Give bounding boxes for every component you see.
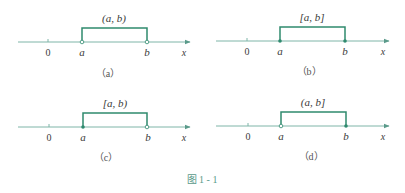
open-endpoint-a	[80, 40, 84, 44]
b-label: b	[342, 45, 348, 57]
closed-endpoint-a	[278, 39, 282, 43]
origin-label: 0	[46, 47, 51, 58]
axis-label: x	[380, 131, 386, 142]
interval-bracket	[82, 28, 147, 42]
open-endpoint-a	[279, 124, 283, 128]
closed-endpoint-b	[343, 39, 347, 43]
axis-label: x	[181, 47, 187, 58]
sub-caption: （b）	[297, 66, 322, 77]
b-label: b	[144, 46, 150, 58]
open-endpoint-b	[145, 125, 149, 129]
interval-label: [a, b]	[299, 11, 324, 23]
axis-label: x	[181, 132, 187, 143]
panel-d: (a, b] 0 a b x （d）	[216, 96, 389, 162]
interval-bracket	[280, 27, 345, 41]
closed-endpoint-a	[81, 125, 85, 129]
figure-caption: 图 1 - 1	[187, 174, 218, 185]
closed-endpoint-b	[344, 124, 348, 128]
interval-label: (a, b)	[102, 12, 126, 25]
panel-a: (a, b) 0 a b x （a）	[18, 12, 190, 79]
panel-c: [a, b) 0 a b x （c）	[18, 97, 190, 163]
interval-bracket	[281, 112, 346, 126]
sub-caption: （d）	[299, 151, 324, 162]
interval-label: [a, b)	[103, 97, 128, 110]
axis-label: x	[380, 46, 386, 57]
a-label: a	[277, 45, 283, 57]
interval-figure: (a, b) 0 a b x （a） [a, b] 0 a b x （b） [a…	[0, 0, 405, 193]
a-label: a	[79, 46, 85, 58]
b-label: b	[343, 130, 349, 142]
b-label: b	[145, 131, 151, 143]
a-label: a	[80, 131, 86, 143]
sub-caption: （c）	[94, 152, 118, 163]
panel-b: [a, b] 0 a b x （b）	[216, 11, 389, 77]
sub-caption: （a）	[96, 68, 120, 79]
interval-label: (a, b]	[301, 96, 325, 109]
open-endpoint-b	[145, 40, 149, 44]
origin-label: 0	[246, 131, 251, 142]
interval-bracket	[83, 113, 147, 127]
origin-label: 0	[47, 132, 52, 143]
a-label: a	[278, 130, 284, 142]
origin-label: 0	[245, 46, 250, 57]
